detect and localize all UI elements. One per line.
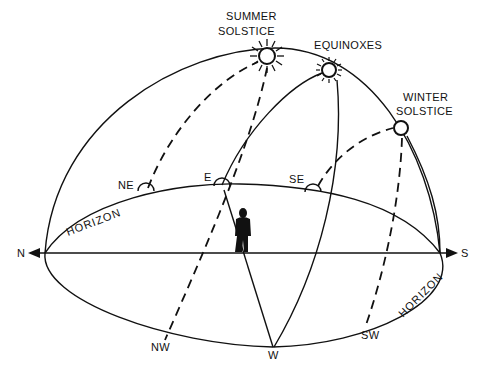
direction-label-se: SE [289,173,304,185]
summer-solstice-label: SUMMER [226,10,277,22]
sun-rise-ne-icon [138,183,154,191]
north-arrow-icon [28,248,40,258]
winter-solstice-label-2: SOLSTICE [396,105,453,117]
winter-solstice-path-rise [318,128,393,186]
south-arrow-icon [446,248,458,258]
horizon-label-right: HORIZON [396,270,445,319]
equinox-path-rise [222,73,322,185]
direction-label-e: E [204,171,212,183]
observer-person-icon [235,208,251,252]
equinoxes-label: EQUINOXES [314,39,382,51]
horizon-front-arc [45,253,443,347]
direction-label-w: W [268,349,279,361]
equinox-sun-icon [316,57,342,83]
direction-label-ne: NE [118,179,134,191]
summer-solstice-path-rise [148,62,258,188]
winter-solstice-path-set [366,138,402,325]
east-to-west-line [224,190,273,347]
direction-label-nw: NW [151,341,170,353]
summer-solstice-label-2: SOLSTICE [218,25,275,37]
winter-sun-icon [394,121,408,135]
equinox-path-set [274,80,338,347]
horizon-label-left: HORIZON [64,206,122,238]
summer-solstice-path-set [165,68,267,340]
direction-label-sw: SW [361,329,380,341]
direction-label-s: S [461,247,469,259]
sun-path-diagram: SUMMER SOLSTICE EQUINOXES WINTER SOLSTIC… [0,0,484,373]
direction-label-n: N [17,247,25,259]
summer-sun-icon [250,39,284,73]
winter-solstice-label: WINTER [403,91,448,103]
